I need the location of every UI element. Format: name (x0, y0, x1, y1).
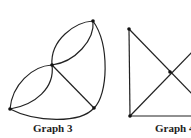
graph-4 (129, 29, 191, 116)
vertex (128, 114, 132, 118)
graph-4-label: Graph 4 (155, 122, 191, 134)
edge-middle-br (52, 65, 94, 108)
vertex (91, 19, 95, 23)
graph-4-vertices (127, 27, 172, 118)
edge-bl-middle-lower (10, 65, 52, 109)
vertex (168, 70, 172, 74)
vertex (127, 27, 131, 31)
edge-bl-br (10, 108, 94, 119)
edge-left (129, 29, 130, 116)
edge-diag-up (130, 49, 191, 116)
vertex (92, 106, 96, 110)
vertex (8, 107, 12, 111)
graph-3 (10, 21, 105, 119)
vertex (50, 63, 54, 67)
edge-top-br (93, 21, 105, 108)
graph-3-label: Graph 3 (33, 122, 72, 134)
graphs-figure (0, 0, 191, 138)
